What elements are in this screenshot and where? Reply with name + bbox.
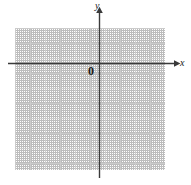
axes-group [0,0,191,185]
origin-label: 0 [88,65,94,77]
coordinate-plane-figure: y x 0 [0,0,191,185]
y-axis-label: y [95,1,99,11]
x-axis-label: x [180,58,184,68]
